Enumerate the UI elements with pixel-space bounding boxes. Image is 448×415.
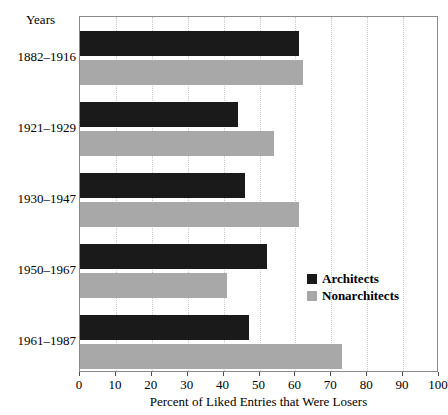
- x-tick-mark: [438, 372, 439, 376]
- category-label-4: 1961–1987: [18, 333, 77, 349]
- bar: [80, 31, 299, 56]
- gridline: [403, 17, 405, 371]
- bar: [80, 344, 342, 369]
- x-tick-mark: [223, 372, 224, 376]
- category-label-2: 1930–1947: [18, 191, 77, 207]
- category-label-3: 1950–1967: [18, 262, 77, 278]
- plot-area: [79, 16, 438, 372]
- chart-legend: ArchitectsNonarchitects: [307, 271, 399, 305]
- gridline: [367, 17, 369, 371]
- x-tick-label-60: 60: [288, 377, 301, 393]
- category-label-0: 1882–1916: [18, 49, 77, 65]
- bar-chart: Years 0102030405060708090100 Percent of …: [0, 0, 448, 415]
- legend-swatch-icon: [307, 274, 317, 284]
- category-label-1: 1921–1929: [18, 120, 77, 136]
- gridline: [331, 17, 333, 371]
- bar: [80, 202, 299, 227]
- x-tick-label-40: 40: [216, 377, 229, 393]
- x-tick-label-90: 90: [396, 377, 409, 393]
- x-tick-label-30: 30: [180, 377, 193, 393]
- legend-label: Nonarchitects: [322, 288, 399, 304]
- legend-item: Architects: [307, 271, 399, 287]
- x-tick-mark: [366, 372, 367, 376]
- x-tick-label-20: 20: [144, 377, 157, 393]
- x-tick-label-10: 10: [108, 377, 121, 393]
- x-tick-mark: [294, 372, 295, 376]
- bar: [80, 60, 303, 85]
- x-tick-mark: [259, 372, 260, 376]
- bar: [80, 131, 274, 156]
- x-tick-label-70: 70: [324, 377, 337, 393]
- legend-label: Architects: [322, 271, 379, 287]
- x-tick-label-80: 80: [360, 377, 373, 393]
- x-tick-mark: [330, 372, 331, 376]
- bar: [80, 244, 267, 269]
- x-tick-mark: [115, 372, 116, 376]
- bar: [80, 102, 238, 127]
- x-tick-mark: [187, 372, 188, 376]
- bar: [80, 273, 227, 298]
- bar: [80, 315, 249, 340]
- bar: [80, 173, 245, 198]
- y-axis-title: Years: [26, 12, 55, 28]
- x-tick-mark: [151, 372, 152, 376]
- x-tick-mark: [402, 372, 403, 376]
- x-tick-label-100: 100: [428, 377, 448, 393]
- legend-item: Nonarchitects: [307, 288, 399, 304]
- x-tick-mark: [79, 372, 80, 376]
- x-tick-label-0: 0: [76, 377, 83, 393]
- x-tick-label-50: 50: [252, 377, 265, 393]
- legend-swatch-icon: [307, 291, 317, 301]
- x-axis-title: Percent of Liked Entries that Were Loser…: [79, 394, 438, 410]
